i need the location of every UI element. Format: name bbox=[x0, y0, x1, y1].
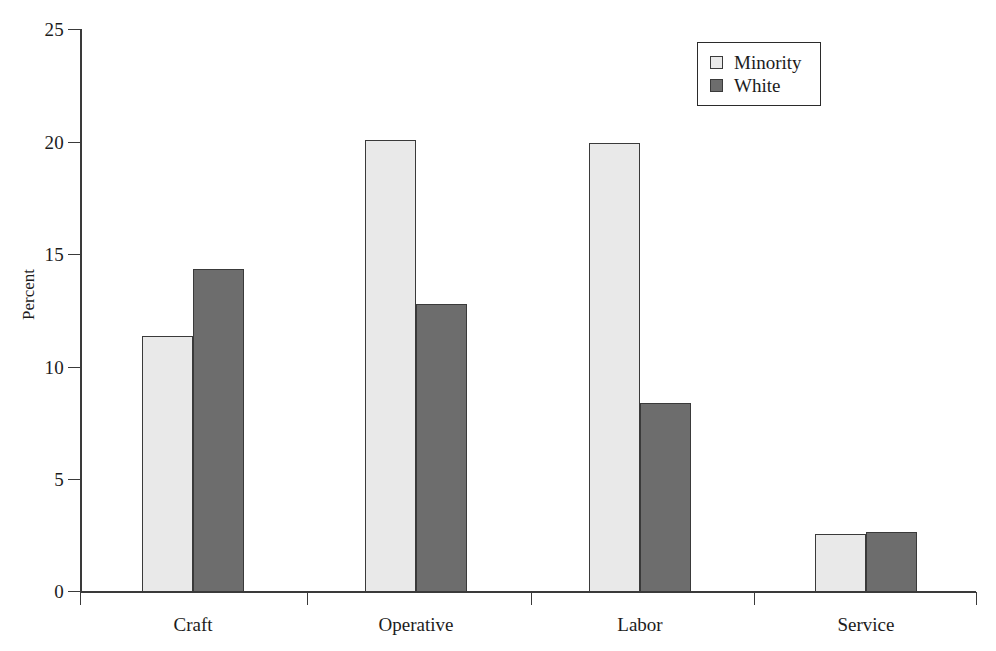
x-tick-mark-3 bbox=[754, 592, 755, 605]
y-tick-mark-15 bbox=[68, 254, 80, 255]
y-tick-label-10: 10 bbox=[24, 358, 64, 377]
legend-swatch-white-icon bbox=[710, 79, 723, 92]
x-axis-label-craft: Craft bbox=[93, 614, 293, 636]
bar-service-minority bbox=[815, 534, 866, 592]
y-tick-label-15: 15 bbox=[24, 245, 64, 264]
y-tick-mark-5 bbox=[68, 479, 80, 480]
bar-craft-white bbox=[193, 269, 244, 592]
bar-chart: Percent 25 20 15 10 5 0 Craft Operative … bbox=[0, 0, 996, 651]
y-tick-mark-25 bbox=[68, 29, 80, 30]
legend: Minority White bbox=[697, 42, 821, 106]
bar-operative-white bbox=[416, 304, 467, 592]
y-tick-label-20: 20 bbox=[24, 133, 64, 152]
y-tick-mark-10 bbox=[68, 367, 80, 368]
y-tick-mark-20 bbox=[68, 142, 80, 143]
x-axis-label-service: Service bbox=[766, 614, 966, 636]
y-tick-label-5: 5 bbox=[24, 470, 64, 489]
y-axis-line bbox=[80, 29, 82, 593]
bar-labor-minority bbox=[589, 143, 640, 592]
x-tick-mark-1 bbox=[307, 592, 308, 605]
y-tick-label-25: 25 bbox=[24, 20, 64, 39]
legend-item-minority: Minority bbox=[710, 51, 802, 74]
legend-label-white: White bbox=[734, 76, 780, 95]
x-axis-label-labor: Labor bbox=[540, 614, 740, 636]
x-tick-mark-4 bbox=[976, 592, 977, 605]
bar-craft-minority bbox=[142, 336, 193, 592]
x-tick-mark-2 bbox=[531, 592, 532, 605]
y-tick-label-0: 0 bbox=[24, 582, 64, 601]
x-axis-label-operative: Operative bbox=[316, 614, 516, 636]
bar-service-white bbox=[866, 532, 917, 592]
legend-label-minority: Minority bbox=[734, 53, 802, 72]
legend-item-white: White bbox=[710, 74, 802, 97]
y-tick-mark-0 bbox=[68, 591, 80, 592]
x-tick-mark-0 bbox=[80, 592, 81, 605]
bar-operative-minority bbox=[365, 140, 416, 592]
bar-labor-white bbox=[640, 403, 691, 592]
legend-swatch-minority-icon bbox=[710, 56, 723, 69]
